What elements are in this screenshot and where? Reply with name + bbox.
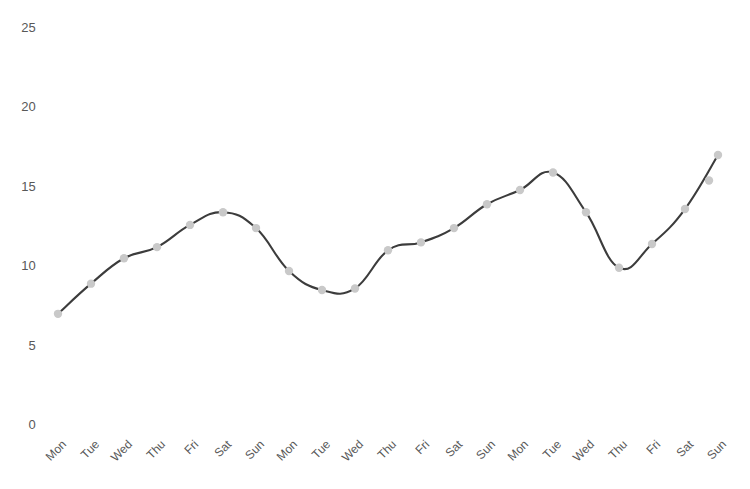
data-point-marker <box>252 224 260 232</box>
line-chart: 2520151050 MonTueWedThuFriSatSunMonTueWe… <box>0 0 750 489</box>
data-point-marker <box>450 224 458 232</box>
data-point-marker <box>417 238 425 246</box>
data-point-marker <box>516 186 524 194</box>
data-point-marker <box>54 310 62 318</box>
data-point-marker <box>705 176 713 184</box>
data-point-marker <box>186 221 194 229</box>
data-point-marker <box>681 205 689 213</box>
series-line-value <box>58 155 718 314</box>
series-markers-value <box>54 151 722 318</box>
data-point-marker <box>285 267 293 275</box>
data-point-marker <box>219 208 227 216</box>
data-point-marker <box>120 254 128 262</box>
data-point-marker <box>648 240 656 248</box>
data-point-marker <box>483 200 491 208</box>
data-point-marker <box>615 264 623 272</box>
data-point-marker <box>351 284 359 292</box>
data-point-marker <box>318 286 326 294</box>
data-point-marker <box>714 151 722 159</box>
plot-area <box>0 0 750 489</box>
data-point-marker <box>582 208 590 216</box>
data-point-marker <box>549 168 557 176</box>
data-point-marker <box>87 279 95 287</box>
data-point-marker <box>384 246 392 254</box>
data-point-marker <box>153 243 161 251</box>
